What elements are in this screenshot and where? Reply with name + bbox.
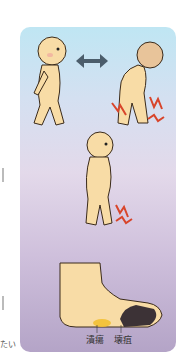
double-arrow-icon [76,54,108,68]
edge-divider-2 [2,296,4,310]
edge-text-fragment: たい [0,341,16,349]
gangrene-label: 壊疽 [114,333,132,346]
standing-person-icon [86,132,113,225]
walking-person-icon [34,37,66,125]
illustration-card: 潰瘍 壊疽 [20,27,176,352]
edge-divider-1 [2,168,4,182]
illustration [20,27,176,352]
pain-bolt-icon [116,205,132,223]
ulcer-mark [93,319,111,327]
ulcer-label: 潰瘍 [86,333,104,346]
